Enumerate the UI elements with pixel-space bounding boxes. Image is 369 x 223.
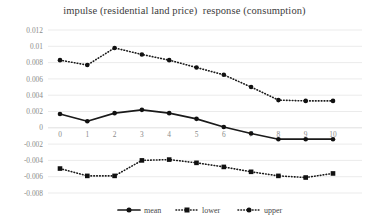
data-series-group	[58, 46, 336, 180]
x-axis-tick-label: 1	[85, 130, 89, 139]
data-point-marker-lower	[85, 174, 90, 179]
data-point-marker-mean	[85, 119, 90, 124]
data-point-marker-mean	[167, 111, 172, 116]
y-axis-tick-label: 0.006	[26, 75, 43, 84]
data-point-marker-upper	[303, 99, 308, 104]
data-point-marker-mean	[222, 125, 227, 130]
data-point-marker-lower	[140, 158, 145, 163]
data-point-marker-lower	[112, 174, 117, 179]
legend-swatch-marker-mean	[127, 208, 132, 213]
data-point-marker-lower	[249, 170, 254, 175]
chart-plot-area: 0.0120.010.0080.0060.0040.0020-0.002-0.0…	[0, 0, 369, 223]
data-point-marker-lower	[222, 165, 227, 170]
data-point-marker-upper	[167, 58, 172, 63]
data-point-marker-upper	[140, 52, 145, 57]
y-axis-tick-label: 0.01	[30, 42, 43, 51]
data-point-marker-upper	[222, 73, 227, 78]
x-axis-tick-label: 6	[222, 130, 226, 139]
data-point-marker-lower	[303, 175, 308, 180]
data-point-marker-mean	[276, 137, 281, 142]
legend-label-mean: mean	[144, 206, 161, 215]
legend-swatch-marker-upper	[247, 208, 252, 213]
x-axis-tick-labels: 012345678910	[58, 130, 337, 139]
chart-legend: meanlowerupper	[118, 206, 283, 215]
y-axis-tick-label: 0.004	[26, 91, 43, 100]
y-axis-tick-labels: 0.0120.010.0080.0060.0040.0020-0.002-0.0…	[24, 26, 43, 198]
data-point-marker-upper	[85, 63, 90, 68]
data-point-marker-lower	[276, 174, 281, 179]
data-point-marker-upper	[112, 46, 117, 51]
data-point-marker-mean	[249, 131, 254, 136]
y-axis-tick-label: 0	[39, 123, 43, 132]
data-point-marker-mean	[194, 117, 199, 122]
data-point-marker-lower	[194, 161, 199, 166]
x-axis-tick-label: 4	[167, 130, 171, 139]
data-point-marker-upper	[194, 65, 199, 70]
legend-swatch-marker-lower	[185, 208, 190, 213]
legend-label-upper: upper	[264, 206, 283, 215]
y-axis-tick-label: -0.004	[24, 156, 43, 165]
y-axis-tick-label: -0.008	[24, 189, 43, 198]
data-point-marker-upper	[331, 99, 336, 104]
chart-container: impulse (residential land price) respons…	[0, 0, 369, 223]
data-point-marker-lower	[331, 171, 336, 176]
y-axis-tick-label: 0.012	[26, 26, 43, 35]
legend-label-lower: lower	[202, 206, 221, 215]
data-point-marker-lower	[58, 166, 63, 171]
gridlines-group	[48, 30, 362, 193]
y-axis-tick-label: 0.002	[26, 107, 43, 116]
y-axis-tick-label: 0.008	[26, 58, 43, 67]
data-point-marker-upper	[276, 98, 281, 103]
x-axis-tick-label: 5	[195, 130, 199, 139]
data-point-marker-upper	[58, 58, 63, 63]
data-point-marker-lower	[167, 157, 172, 162]
series-line-upper	[60, 48, 333, 101]
data-point-marker-upper	[249, 85, 254, 90]
y-axis-tick-label: -0.002	[24, 140, 43, 149]
x-axis-tick-label: 0	[58, 130, 62, 139]
data-point-marker-mean	[331, 137, 336, 142]
y-axis-tick-label: -0.006	[24, 172, 43, 181]
data-point-marker-mean	[303, 137, 308, 142]
x-axis-tick-label: 3	[140, 130, 144, 139]
x-axis-tick-label: 2	[113, 130, 117, 139]
data-point-marker-mean	[140, 108, 145, 113]
data-point-marker-mean	[58, 112, 63, 117]
data-point-marker-mean	[112, 111, 117, 116]
